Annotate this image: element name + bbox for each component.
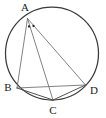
- segment-a-to-d: [28, 19, 86, 86]
- circle-geometry-diagram: A B C D: [0, 0, 106, 118]
- vertex-label-d: D: [90, 84, 98, 96]
- segment-b-to-d: [17, 85, 86, 88]
- segment-c-to-d: [53, 85, 86, 100]
- vertex-label-a: A: [21, 1, 29, 13]
- angle-tick-mark-1: [28, 25, 30, 27]
- geometry-figure: A B C D: [0, 0, 106, 118]
- angle-tick-mark-2: [32, 25, 34, 27]
- vertex-label-b: B: [4, 81, 11, 93]
- vertex-label-c: C: [49, 104, 56, 116]
- segment-a-to-b: [17, 19, 28, 89]
- segment-b-to-c: [17, 88, 53, 100]
